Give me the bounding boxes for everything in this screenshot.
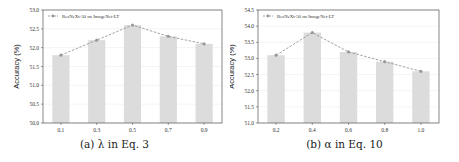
y-tick-label: 50.0 [29, 120, 39, 126]
legend-marker-icon [267, 15, 270, 18]
chart-alpha: 51.051.552.052.553.053.554.054.50.20.40.… [230, 0, 459, 136]
bar [124, 25, 141, 123]
y-tick-label: 50.5 [29, 101, 39, 107]
y-axis-label: Accuracy (%) [12, 44, 21, 89]
data-point-marker [311, 31, 314, 34]
x-tick-label: 0.7 [165, 127, 172, 133]
data-point-marker [275, 54, 278, 57]
chart-panel-alpha: 51.051.552.052.553.053.554.054.50.20.40.… [230, 0, 459, 162]
data-point-marker [203, 42, 206, 45]
y-axis-label: Accuracy (%) [230, 44, 236, 89]
y-tick-label: 52.0 [29, 45, 39, 51]
y-tick-label: 51.0 [244, 120, 254, 126]
y-tick-label: 53.0 [244, 55, 254, 61]
y-tick-label: 52.5 [244, 72, 254, 78]
chart-panel-lambda: 50.050.551.051.552.052.553.00.10.30.50.7… [0, 0, 229, 162]
data-point-marker [347, 50, 350, 53]
data-point-marker [95, 39, 98, 42]
bar [340, 52, 357, 123]
y-tick-label: 54.0 [244, 23, 254, 29]
bar [160, 36, 177, 123]
x-tick-label: 0.5 [129, 127, 136, 133]
data-point-marker [383, 60, 386, 63]
data-point-marker [131, 23, 134, 26]
x-tick-label: 0.1 [57, 127, 64, 133]
y-tick-label: 54.5 [244, 7, 254, 13]
x-tick-label: 0.4 [309, 127, 316, 133]
legend-marker-icon [52, 15, 55, 18]
bar [412, 71, 429, 123]
y-tick-label: 51.5 [244, 104, 254, 110]
caption-alpha: (b) α in Eq. 10 [230, 138, 459, 150]
bar [267, 55, 284, 123]
bar [196, 44, 213, 123]
chart-lambda: 50.050.551.051.552.052.553.00.10.30.50.7… [0, 0, 229, 136]
x-tick-label: 0.8 [381, 127, 388, 133]
caption-lambda: (a) λ in Eq. 3 [0, 138, 229, 150]
x-tick-label: 0.9 [201, 127, 208, 133]
x-tick-label: 0.3 [93, 127, 100, 133]
x-tick-label: 0.2 [273, 127, 280, 133]
bar [52, 55, 69, 123]
bar [304, 33, 321, 123]
y-tick-label: 53.0 [29, 7, 39, 13]
data-point-marker [59, 54, 62, 57]
x-tick-label: 0.6 [345, 127, 352, 133]
data-point-marker [419, 70, 422, 73]
bar [376, 62, 393, 123]
data-point-marker [167, 35, 170, 38]
y-tick-label: 52.0 [244, 88, 254, 94]
y-tick-label: 53.5 [244, 39, 254, 45]
y-tick-label: 51.0 [29, 82, 39, 88]
legend-label: ResNeXt-50 on ImageNet-LT [62, 14, 119, 19]
y-tick-label: 51.5 [29, 64, 39, 70]
y-tick-label: 52.5 [29, 26, 39, 32]
legend-label: ResNeXt-50 on ImageNet-LT [277, 14, 334, 19]
x-tick-label: 1.0 [417, 127, 424, 133]
bar [88, 40, 105, 123]
